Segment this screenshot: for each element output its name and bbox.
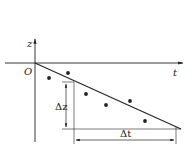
t-axis-label: t bbox=[173, 67, 178, 78]
diagram-canvas: z t O Δz Δt bbox=[0, 0, 192, 153]
delta-z-label: Δz bbox=[55, 101, 68, 112]
data-point bbox=[47, 76, 51, 80]
data-points bbox=[47, 71, 147, 123]
data-point bbox=[143, 119, 147, 123]
data-point bbox=[84, 92, 88, 96]
z-axis-label: z bbox=[26, 38, 33, 49]
origin-label: O bbox=[24, 66, 32, 77]
data-point bbox=[128, 99, 132, 103]
data-point bbox=[66, 71, 70, 75]
data-point bbox=[104, 103, 108, 107]
delta-t-label: Δt bbox=[120, 128, 131, 139]
fit-line bbox=[35, 63, 181, 129]
